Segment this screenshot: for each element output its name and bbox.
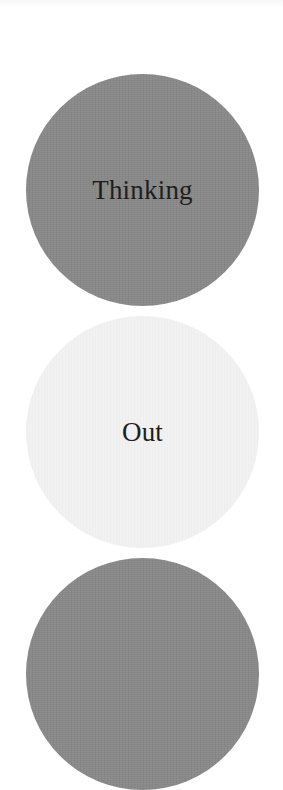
option-label: Thinking [92,177,193,204]
out-option-button[interactable]: Out [26,316,259,548]
option-label: Out [122,419,163,446]
top-clipped-header [0,0,283,8]
third-option-button[interactable] [26,558,259,790]
thinking-option-button[interactable]: Thinking [26,74,259,306]
